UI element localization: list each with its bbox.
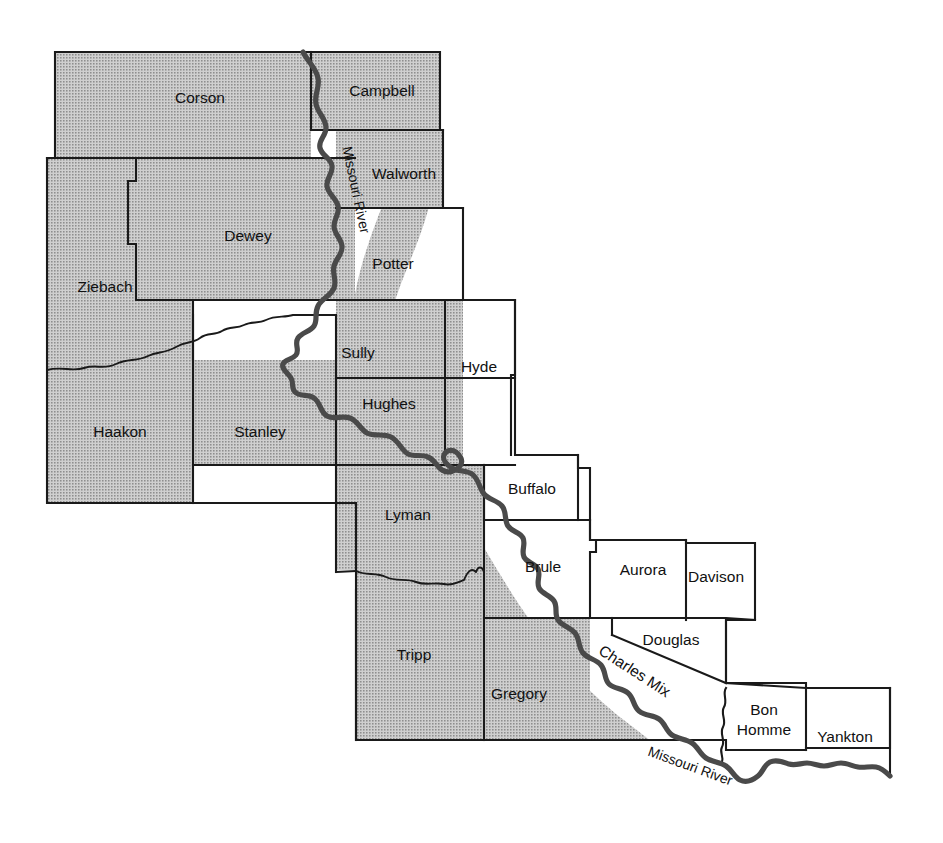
county-label-bon-homme-line1: Bon xyxy=(750,701,778,718)
county-label-haakon: Haakon xyxy=(93,423,146,440)
county-label-bon-homme-line2: Homme xyxy=(737,721,791,738)
county-label-lyman: Lyman xyxy=(385,506,431,523)
county-label-douglas: Douglas xyxy=(643,631,700,648)
county-label-sully: Sully xyxy=(341,344,375,361)
county-map: Corson Campbell Walworth Dewey Ziebach P… xyxy=(0,0,943,843)
county-label-walworth: Walworth xyxy=(372,165,436,182)
county-label-ziebach: Ziebach xyxy=(77,278,132,295)
county-shape-tripp xyxy=(356,590,484,740)
county-label-dewey: Dewey xyxy=(224,227,272,244)
county-shape-stanley xyxy=(193,360,336,465)
map-canvas: Corson Campbell Walworth Dewey Ziebach P… xyxy=(0,0,943,843)
county-label-gregory: Gregory xyxy=(491,685,547,702)
county-label-yankton: Yankton xyxy=(817,728,873,745)
county-label-buffalo: Buffalo xyxy=(508,480,556,497)
county-label-brule: Brule xyxy=(525,558,561,575)
county-label-hyde: Hyde xyxy=(461,358,497,375)
county-label-campbell: Campbell xyxy=(349,82,414,99)
county-label-stanley: Stanley xyxy=(234,423,286,440)
county-label-davison: Davison xyxy=(688,568,744,585)
county-label-potter: Potter xyxy=(372,255,413,272)
county-label-corson: Corson xyxy=(175,89,225,106)
county-label-tripp: Tripp xyxy=(397,646,432,663)
county-label-hughes: Hughes xyxy=(362,395,416,412)
county-label-aurora: Aurora xyxy=(620,561,667,578)
